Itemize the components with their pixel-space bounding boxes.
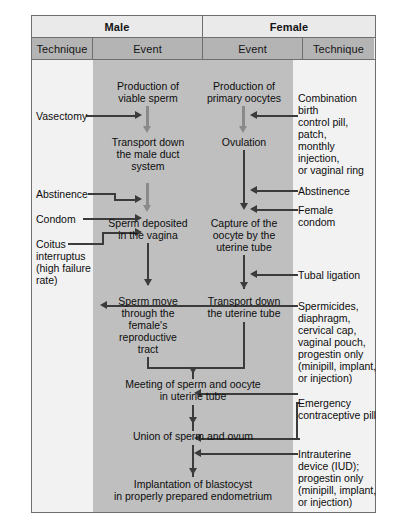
technique-line-vasectomy — [86, 115, 138, 117]
flow-arrowhead — [189, 468, 197, 475]
column-header-label: Technique — [313, 43, 364, 55]
node-line: in the vagina — [88, 229, 208, 241]
technique-line: rate) — [36, 274, 96, 286]
technique-coitus-interruptus: Coitus interruptus (high failure rate) — [36, 238, 96, 286]
technique-line: progestin only — [298, 472, 378, 484]
technique-line: interruptus — [36, 250, 96, 262]
technique-line: Condom — [36, 213, 92, 225]
technique-line: condom — [298, 216, 376, 228]
column-header-female-event: Event — [203, 38, 303, 59]
node-line: in properly prepared endometrium — [88, 490, 298, 502]
flow-arrowhead — [189, 367, 197, 374]
technique-arrowhead-abstinence-male — [135, 195, 142, 203]
header-female-label: Female — [270, 21, 309, 33]
flow-arrowhead — [143, 126, 151, 133]
event-node-union: Union of sperm and ovum — [98, 430, 288, 442]
technique-arrowhead-abstinence-female — [250, 186, 257, 194]
flow-arrowhead — [189, 417, 197, 424]
node-line: Ovulation — [197, 136, 291, 148]
technique-vasectomy: Vasectomy — [36, 110, 92, 122]
technique-line-female-condom — [254, 209, 298, 211]
event-node-implantation: Implantation of blastocyst in properly p… — [88, 478, 298, 502]
column-header-male-event: Event — [93, 38, 203, 59]
column-header-label: Event — [238, 43, 267, 55]
node-line: female's — [96, 319, 200, 331]
header-male: Male — [32, 16, 203, 37]
column-header-label: Event — [133, 43, 162, 55]
technique-emergency-pill: Emergency contraceptive pill — [298, 397, 378, 421]
flow-arrowhead — [144, 279, 152, 286]
node-line: in uterine tube — [98, 390, 288, 402]
node-line: Production of — [190, 80, 298, 92]
event-node-uterine-transport: Transport down the uterine tube — [189, 295, 299, 319]
flow-arrow-sperm-to-duct — [146, 106, 149, 128]
technique-line: device (IUD); — [298, 460, 378, 472]
technique-arrowhead-tubal-ligation — [250, 270, 257, 278]
node-line: the male duct — [88, 148, 208, 160]
node-line: oocyte by the — [194, 229, 294, 241]
header-row-sex: Male Female — [32, 16, 375, 38]
event-node-sperm-deposited: Sperm deposited in the vagina — [88, 217, 208, 241]
flowchart-table: Male Female Technique Event Event Techni… — [31, 15, 376, 513]
technique-line: Combination birth — [298, 92, 376, 116]
technique-arrowhead-vasectomy — [135, 111, 142, 119]
flow-line-sperm-move-across — [147, 367, 195, 369]
event-node-sperm-move: Sperm move through the female's reproduc… — [96, 295, 200, 355]
technique-line: diaphragm, — [298, 312, 378, 324]
event-node-male-duct-transport: Transport down the male duct system — [88, 136, 208, 172]
flow-arrowhead — [239, 126, 247, 133]
column-header-label: Technique — [36, 43, 87, 55]
node-line: reproductive — [96, 331, 200, 343]
node-line: primary oocytes — [190, 92, 298, 104]
technique-line: (high failure — [36, 262, 96, 274]
technique-line-combination-pill — [254, 115, 298, 117]
technique-line-tubal-ligation — [254, 274, 298, 276]
technique-line: (minipill, implant, — [298, 484, 378, 496]
node-line: uterine tube — [194, 241, 294, 253]
technique-iud: Intrauterine device (IUD); progestin onl… — [298, 448, 378, 508]
column-header-female-technique: Technique — [303, 38, 374, 59]
node-line: Capture of the — [194, 217, 294, 229]
technique-line: Emergency — [298, 397, 378, 409]
node-line: through the — [96, 307, 200, 319]
technique-female-condom: Female condom — [298, 204, 376, 228]
technique-line: (minipill, implant, — [298, 360, 378, 372]
flowchart-body: Production of viable sperm Transport dow… — [32, 60, 375, 512]
technique-line: control pill, patch, — [298, 116, 376, 140]
technique-line: or injection) — [298, 372, 378, 384]
node-line: Sperm deposited — [88, 217, 208, 229]
technique-arrowhead-combination-pill — [250, 111, 257, 119]
technique-line-abstinence-male-h1 — [88, 193, 116, 195]
node-line: tract — [96, 343, 200, 355]
flow-arrowhead — [240, 282, 248, 289]
node-line: Transport down — [88, 136, 208, 148]
node-line: Sperm move — [96, 295, 200, 307]
technique-line: or vaginal ring — [298, 164, 376, 176]
technique-arrowhead-iud — [194, 449, 201, 457]
flow-arrowhead — [143, 205, 151, 212]
flow-line-uterine-across — [193, 367, 245, 369]
flow-arrowhead — [240, 203, 248, 210]
technique-line-abstinence-female — [254, 190, 298, 192]
header-male-label: Male — [105, 21, 130, 33]
technique-condom: Condom — [36, 213, 92, 225]
event-node-oocyte-capture: Capture of the oocyte by the uterine tub… — [194, 217, 294, 253]
technique-abstinence-female: Abstinence — [298, 185, 376, 197]
event-node-viable-sperm: Production of viable sperm — [93, 80, 203, 104]
column-header-male-technique: Technique — [32, 38, 93, 59]
technique-line: progestin only — [298, 348, 378, 360]
node-line: Transport down — [189, 295, 299, 307]
technique-combination-pill: Combination birth control pill, patch, m… — [298, 92, 376, 176]
technique-line: Coitus — [36, 238, 96, 250]
technique-tubal-ligation: Tubal ligation — [298, 269, 376, 281]
event-node-primary-oocytes: Production of primary oocytes — [190, 80, 298, 104]
node-line: system — [88, 160, 208, 172]
technique-line: Tubal ligation — [298, 269, 376, 281]
technique-line: Intrauterine — [298, 448, 378, 460]
flow-arrow-oocytes-to-ovulation — [242, 106, 245, 128]
node-line: Union of sperm and ovum — [98, 430, 288, 442]
header-female: Female — [203, 16, 375, 37]
header-row-columns: Technique Event Event Technique — [32, 38, 375, 60]
technique-abstinence-male: Abstinence — [36, 188, 92, 200]
flow-line-uterine-down — [243, 322, 245, 369]
